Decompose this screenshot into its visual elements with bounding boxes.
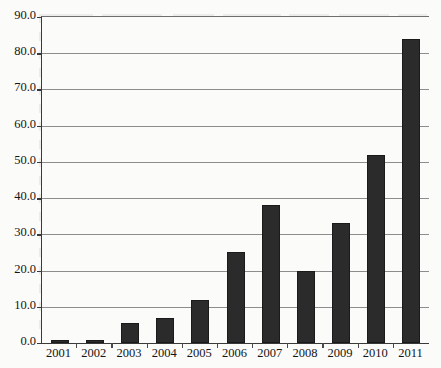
bar-slot: [288, 17, 323, 343]
x-axis-tick-label: 2004: [147, 347, 182, 361]
y-axis-tick: [37, 234, 42, 235]
bar-chart-figure: 0.010.020.030.040.050.060.070.080.090.0 …: [0, 0, 441, 368]
bar-slot: [218, 17, 253, 343]
y-axis-tick-label: 70.0: [14, 81, 36, 94]
bar-slot: [148, 17, 183, 343]
plot-area: [41, 16, 429, 344]
bar: [332, 223, 350, 343]
y-axis-tick-label: 10.0: [14, 299, 36, 312]
y-axis-tick-label: 0.0: [20, 335, 36, 348]
bar: [121, 323, 139, 343]
y-axis-labels: 0.010.020.030.040.050.060.070.080.090.0: [0, 0, 36, 368]
bar-slot: [112, 17, 147, 343]
bar-slot: [42, 17, 77, 343]
x-axis-tick-label: 2010: [358, 347, 393, 361]
y-axis-tick-label: 40.0: [14, 190, 36, 203]
x-axis-tick-label: 2001: [41, 347, 76, 361]
x-axis-tick-label: 2008: [287, 347, 322, 361]
y-axis-tick: [37, 17, 42, 18]
y-axis-tick: [37, 307, 42, 308]
bar: [297, 271, 315, 343]
y-axis-tick: [37, 89, 42, 90]
x-axis-labels: 2001200220032004200520062007200820092010…: [41, 347, 428, 361]
bar: [262, 205, 280, 343]
bar-slot: [359, 17, 394, 343]
bar-slot: [253, 17, 288, 343]
bar-slot: [394, 17, 429, 343]
bar: [156, 318, 174, 343]
x-axis-tick-label: 2009: [323, 347, 358, 361]
y-axis-tick-label: 60.0: [14, 118, 36, 131]
bar: [367, 155, 385, 343]
bar-slot: [77, 17, 112, 343]
bar-slot: [324, 17, 359, 343]
y-axis-tick-label: 90.0: [14, 9, 36, 22]
x-axis-tick-label: 2011: [393, 347, 428, 361]
y-axis-tick-label: 30.0: [14, 226, 36, 239]
y-axis-tick: [37, 162, 42, 163]
y-axis-tick: [37, 53, 42, 54]
y-axis-tick: [37, 198, 42, 199]
bar: [191, 300, 209, 343]
y-axis-tick: [37, 126, 42, 127]
y-axis-tick: [37, 271, 42, 272]
x-axis-tick-label: 2007: [252, 347, 287, 361]
x-axis-tick-label: 2003: [111, 347, 146, 361]
x-axis-tick-label: 2006: [217, 347, 252, 361]
y-axis-tick-label: 80.0: [14, 45, 36, 58]
x-axis-tick-label: 2005: [182, 347, 217, 361]
y-axis-tick-label: 20.0: [14, 263, 36, 276]
bar-series: [42, 17, 429, 343]
y-axis-tick-label: 50.0: [14, 154, 36, 167]
bar: [227, 252, 245, 343]
bar-slot: [183, 17, 218, 343]
x-axis-tick-label: 2002: [76, 347, 111, 361]
bar: [402, 39, 420, 343]
